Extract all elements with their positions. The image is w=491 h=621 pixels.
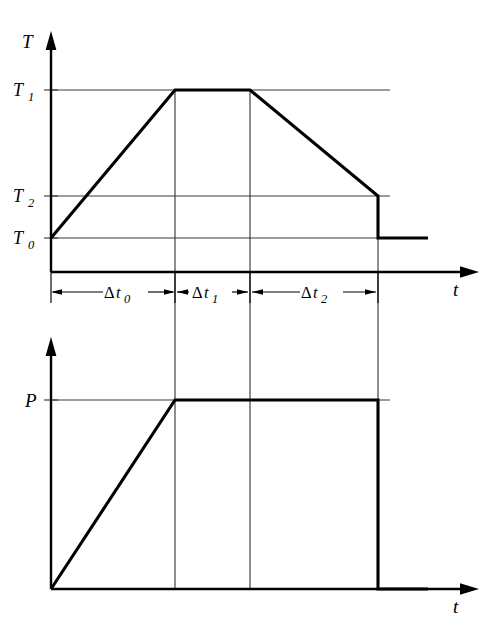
dim-label-dt0-base: t <box>116 283 121 302</box>
interval-dimension-band: Δ t 0 Δ t 1 <box>51 272 378 306</box>
dim-arrow-right-dt1-icon <box>237 289 248 294</box>
diagram-canvas: T t T 1 T 2 T 0 <box>0 0 491 621</box>
dim-arrow-left-dt2-icon <box>252 289 263 294</box>
dim-arrow-right-dt0-icon <box>164 289 175 294</box>
dim-label-dt2: Δ t 2 <box>301 283 327 306</box>
dim-label-dt1-delta: Δ <box>192 283 203 302</box>
power-curve <box>51 400 428 589</box>
arrow-up-icon <box>46 337 57 356</box>
top-chart-y-axis-label: T <box>22 31 34 52</box>
thermal-power-cycle-diagram: T t T 1 T 2 T 0 <box>0 0 491 621</box>
top-chart-x-axis-label: t <box>453 279 459 300</box>
dim-label-dt1: Δ t 1 <box>192 283 218 306</box>
tick-label-T2-subscript: 2 <box>28 196 34 210</box>
dim-label-dt2-subscript: 2 <box>321 292 327 306</box>
dim-label-dt0-delta: Δ <box>104 283 115 302</box>
dim-label-dt2-base: t <box>313 283 318 302</box>
tick-label-T1-base: T <box>13 80 25 100</box>
dim-arrow-right-dt2-icon <box>365 289 376 294</box>
dim-label-dt0: Δ t 0 <box>104 283 131 306</box>
arrow-up-icon <box>46 31 57 50</box>
tick-label-T1-subscript: 1 <box>28 90 34 104</box>
arrow-right-icon <box>460 583 479 595</box>
dim-label-dt1-base: t <box>204 283 209 302</box>
tick-label-T1: T 1 <box>13 80 34 104</box>
dim-arrow-left-dt1-icon <box>177 289 188 294</box>
tick-label-T0: T 0 <box>13 228 35 252</box>
tick-label-T0-subscript: 0 <box>28 238 35 252</box>
tick-label-T0-base: T <box>13 228 25 248</box>
bottom-chart-y-axis-label: P <box>24 390 37 411</box>
dim-label-dt1-subscript: 1 <box>212 292 218 306</box>
top-chart-group: T t T 1 T 2 T 0 <box>13 31 479 589</box>
bottom-chart-group: P t <box>24 337 479 617</box>
arrow-right-icon <box>460 266 479 278</box>
dim-label-dt0-subscript: 0 <box>124 292 131 306</box>
tick-label-T2: T 2 <box>13 186 34 210</box>
tick-label-T2-base: T <box>13 186 25 206</box>
dim-arrow-left-dt0-icon <box>51 289 62 294</box>
temperature-curve <box>51 90 428 238</box>
dim-label-dt2-delta: Δ <box>301 283 312 302</box>
bottom-chart-x-axis-label: t <box>453 596 459 617</box>
